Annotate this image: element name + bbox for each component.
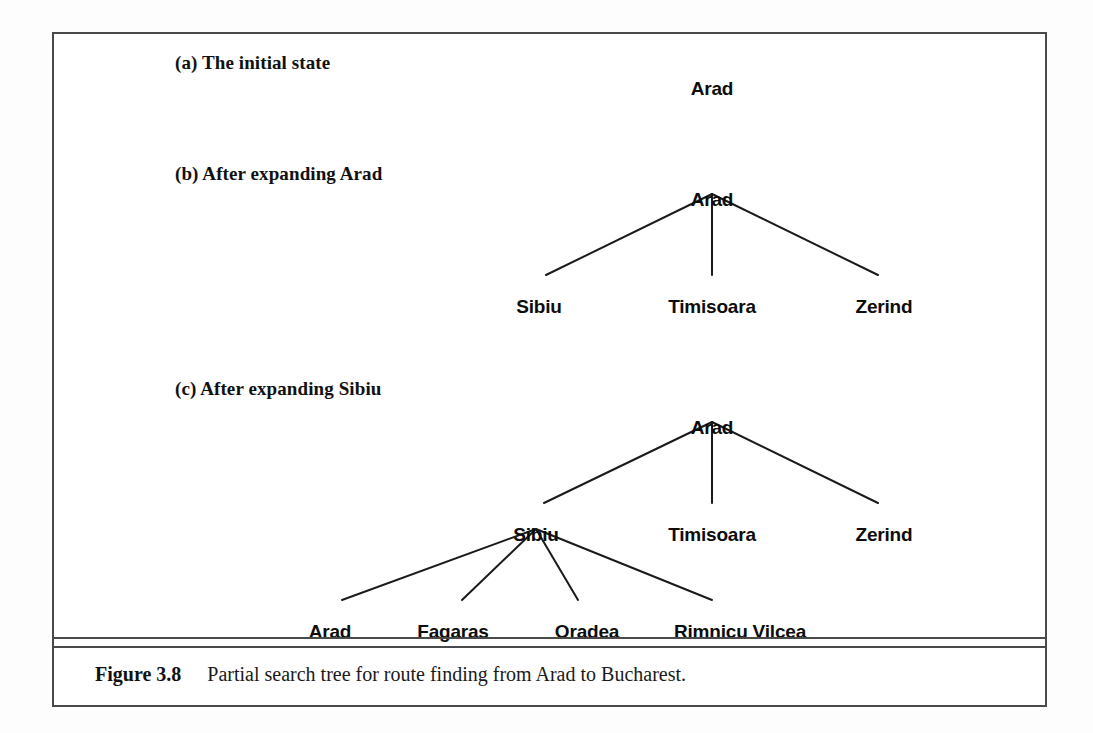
- tree-node-arad: Arad: [691, 78, 734, 100]
- section-label-b: (b) After expanding Arad: [175, 163, 382, 185]
- tree-node-timisoara: Timisoara: [668, 296, 756, 318]
- tree-node-timisoara: Timisoara: [668, 524, 756, 546]
- tree-node-arad: Arad: [309, 621, 352, 643]
- tree-node-sibiu: Sibiu: [513, 524, 558, 546]
- tree-node-arad: Arad: [691, 189, 734, 211]
- figure-caption-text: Partial search tree for route finding fr…: [207, 663, 686, 685]
- tree-node-zerind: Zerind: [856, 296, 913, 318]
- section-label-a: (a) The initial state: [175, 52, 330, 74]
- figure-page: (a) The initial state (b) After expandin…: [0, 0, 1093, 733]
- figure-number: Figure 3.8: [95, 663, 181, 685]
- tree-node-arad: Arad: [691, 417, 734, 439]
- tree-node-zerind: Zerind: [856, 524, 913, 546]
- figure-frame: [52, 32, 1047, 707]
- tree-node-oradea: Oradea: [555, 621, 619, 643]
- section-label-c: (c) After expanding Sibiu: [175, 378, 381, 400]
- tree-node-sibiu: Sibiu: [516, 296, 561, 318]
- tree-node-fagaras: Fagaras: [417, 621, 488, 643]
- figure-caption: Figure 3.8Partial search tree for route …: [95, 663, 995, 686]
- caption-rule-top: [52, 637, 1047, 639]
- tree-node-rimnicu-vilcea: Rimnicu Vilcea: [674, 621, 806, 643]
- caption-rule-bottom: [52, 646, 1047, 648]
